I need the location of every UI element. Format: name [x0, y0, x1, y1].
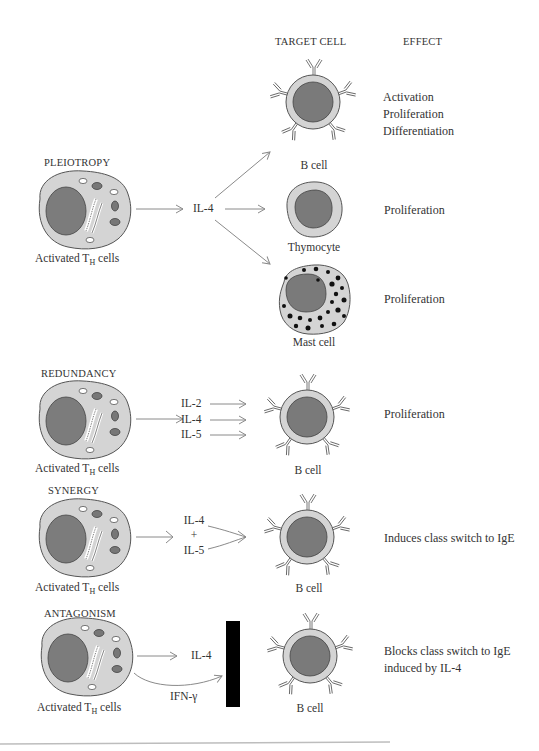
target-thymocyte: Thymocyte	[288, 241, 340, 253]
cytokine-il4-antagonism: IL-4	[191, 649, 211, 661]
section-title-antagonism: ANTAGONISM	[44, 608, 116, 619]
b-cell-antagonism	[267, 613, 354, 695]
cytokine-il4-redundancy: IL-4	[181, 413, 201, 425]
b-cell-pleiotropy	[270, 59, 357, 141]
target-b-cell-pleiotropy: B cell	[300, 159, 327, 171]
target-b-cell-redundancy: B cell	[294, 464, 321, 476]
cytokine-il2: IL-2	[181, 397, 201, 409]
target-mast-cell: Mast cell	[293, 336, 335, 348]
cytokine-il4-synergy: IL-4	[184, 514, 204, 526]
cytokine-il4-pleiotropy: IL-4	[193, 202, 213, 214]
source-label-antagonism: Activated TH cells	[37, 701, 121, 716]
effect-redundancy: Proliferation	[384, 406, 445, 423]
effect-b-cell-pleiotropy: Activation Proliferation Differentiation	[383, 89, 454, 140]
b-cell-redundancy	[264, 374, 351, 456]
th-cell-redundancy	[39, 381, 131, 459]
block-bar	[226, 621, 240, 707]
effect-synergy: Induces class switch to IgE	[384, 530, 515, 547]
plus-sign: +	[191, 529, 198, 541]
source-label-pleiotropy: Activated TH cells	[35, 252, 119, 267]
th-cell-pleiotropy	[39, 171, 131, 249]
effect-thymocyte: Proliferation	[384, 202, 445, 219]
source-label-synergy: Activated TH cells	[35, 581, 119, 596]
header-effect: EFFECT	[403, 36, 442, 47]
source-label-redundancy: Activated TH cells	[35, 462, 119, 477]
target-b-cell-synergy: B cell	[295, 582, 322, 594]
th-cell-synergy	[39, 499, 131, 577]
target-b-cell-antagonism: B cell	[296, 702, 323, 714]
cytokine-il5-synergy: IL-5	[184, 544, 204, 556]
section-title-synergy: SYNERGY	[48, 485, 99, 496]
b-cell-synergy	[264, 494, 351, 576]
section-title-redundancy: REDUNDANCY	[41, 368, 117, 379]
cytokine-il5-redundancy: IL-5	[181, 428, 201, 440]
th-cell-antagonism	[41, 618, 133, 696]
effect-antagonism: Blocks class switch to IgE induced by IL…	[384, 643, 511, 677]
thymocyte	[287, 182, 342, 237]
mast-cell	[279, 265, 350, 334]
cytokine-ifn-gamma: IFN-γ	[170, 690, 197, 702]
effect-mast-cell: Proliferation	[384, 291, 445, 308]
header-target-cell: TARGET CELL	[275, 36, 346, 47]
section-title-pleiotropy: PLEIOTROPY	[44, 157, 110, 168]
